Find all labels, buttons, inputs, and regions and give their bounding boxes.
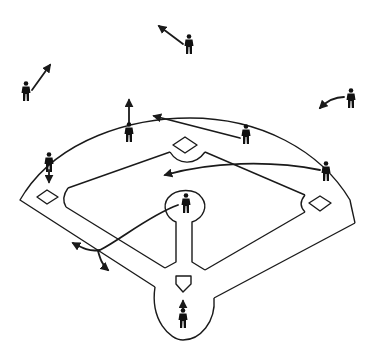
arrow-first-baseman	[165, 164, 320, 175]
player-catcher-icon	[179, 308, 188, 328]
right-foul-line-outer	[214, 223, 355, 298]
first-base	[309, 196, 331, 211]
movement-arrows	[32, 26, 344, 310]
left-foul-line-outer	[20, 192, 155, 287]
player-third-baseman-icon	[45, 152, 54, 172]
outfield-arc	[25, 118, 355, 223]
third-base	[37, 190, 58, 204]
arrow-second-baseman	[154, 116, 240, 138]
field-svg	[0, 0, 373, 348]
arrow-center-fielder	[159, 26, 183, 44]
infield-inner-left	[66, 207, 165, 268]
players	[22, 34, 356, 328]
first-base-cutout	[301, 195, 305, 212]
arrow-left-fielder	[32, 65, 50, 90]
infield-inner-left-back	[68, 152, 170, 188]
infield-inner-right-back	[205, 152, 305, 195]
player-first-baseman-icon	[322, 161, 331, 181]
player-second-baseman-icon	[242, 124, 251, 144]
player-pitcher-icon	[182, 193, 191, 213]
player-left-fielder-icon	[22, 81, 31, 101]
third-base-cutout	[64, 188, 68, 207]
baseball-field-diagram	[0, 0, 373, 348]
player-right-fielder-icon	[347, 88, 356, 108]
infield-inner-right	[205, 212, 305, 270]
second-base	[173, 137, 197, 153]
home-plate	[176, 276, 191, 292]
second-base-cutout	[170, 152, 205, 162]
player-center-fielder-icon	[185, 34, 194, 54]
arrow-right-fielder	[320, 97, 344, 108]
